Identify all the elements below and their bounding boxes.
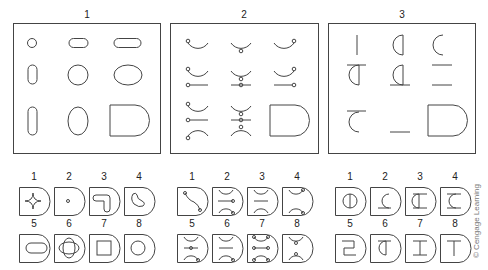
copyright-credit: © Cengage Learning	[472, 184, 481, 258]
big-panel-3-shapes	[347, 35, 467, 136]
small-label: 8	[131, 219, 147, 229]
figure-canvas	[0, 0, 488, 270]
small-panel-3-8	[441, 235, 472, 263]
small-panel-2-2	[213, 188, 244, 216]
small-panel-1-6	[55, 235, 86, 263]
small-label: 4	[289, 172, 305, 182]
small-label: 3	[96, 172, 112, 182]
small-label: 3	[254, 172, 270, 182]
small-panel-2-7	[248, 235, 279, 263]
small-label: 1	[26, 172, 42, 182]
small-label: 7	[96, 219, 112, 229]
big-panel-3-label: 3	[394, 10, 410, 20]
small-label: 1	[342, 172, 358, 182]
small-panel-1-1	[20, 188, 51, 216]
small-panel-2-8	[283, 235, 314, 263]
small-panel-3-2	[371, 188, 402, 216]
small-panel-3-1	[336, 188, 367, 216]
small-label: 7	[412, 219, 428, 229]
small-label: 4	[447, 172, 463, 182]
small-panel-3-6	[371, 235, 402, 263]
small-panel-1-2	[55, 188, 86, 216]
small-label: 8	[447, 219, 463, 229]
small-panel-3-5	[336, 235, 367, 263]
small-label: 5	[342, 219, 358, 229]
small-label: 3	[412, 172, 428, 182]
small-label: 6	[377, 219, 393, 229]
big-panel-1-shapes	[28, 39, 150, 137]
small-label: 2	[377, 172, 393, 182]
small-panel-1-4	[125, 188, 156, 216]
big-panel-2-label: 2	[236, 10, 252, 20]
big-panel-2-frame	[171, 24, 319, 154]
small-panel-1-7	[90, 235, 121, 263]
small-label: 6	[219, 219, 235, 229]
big-panel-3-frame	[329, 24, 476, 154]
small-label: 4	[131, 172, 147, 182]
small-panel-2-5	[178, 235, 209, 263]
small-label: 7	[254, 219, 270, 229]
small-panel-3-3	[406, 188, 437, 216]
small-panel-2-3	[248, 188, 279, 216]
small-label: 2	[61, 172, 77, 182]
small-panel-1-5	[20, 235, 51, 263]
small-label: 5	[184, 219, 200, 229]
small-panel-3-4	[441, 188, 472, 216]
small-label: 2	[219, 172, 235, 182]
small-label: 1	[184, 172, 200, 182]
small-panel-2-1	[178, 188, 209, 216]
small-panel-1-8	[125, 235, 156, 263]
small-panel-3-7	[406, 235, 437, 263]
small-panel-2-4	[283, 188, 314, 216]
small-panel-2-6	[213, 235, 244, 263]
small-panel-1-3	[90, 188, 121, 216]
big-panel-1-label: 1	[79, 10, 95, 20]
small-label: 8	[289, 219, 305, 229]
big-panel-2-shapes	[186, 39, 309, 140]
small-label: 6	[61, 219, 77, 229]
small-label: 5	[26, 219, 42, 229]
